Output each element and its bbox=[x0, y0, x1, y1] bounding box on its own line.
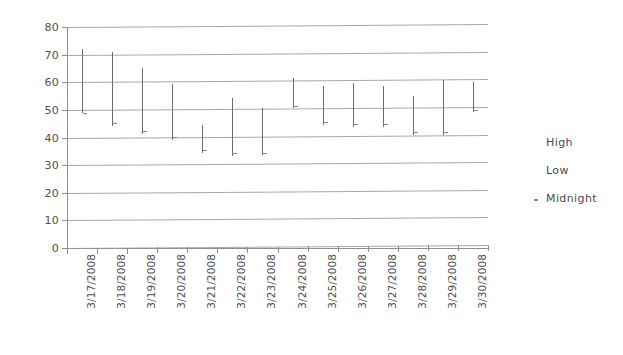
high-low-bar bbox=[112, 52, 113, 127]
y-axis-tick-mark bbox=[62, 27, 67, 28]
high-low-bar bbox=[473, 82, 474, 112]
gridline bbox=[67, 107, 488, 111]
y-axis-tick-label: 30 bbox=[25, 160, 59, 171]
x-axis-tick-label: 3/17/2008 bbox=[86, 254, 97, 309]
x-axis-tick-label: 3/22/2008 bbox=[236, 254, 247, 309]
x-axis-tick-label: 3/25/2008 bbox=[327, 254, 338, 309]
high-low-bar bbox=[413, 96, 414, 135]
x-axis-tick-mark bbox=[278, 247, 279, 253]
midnight-marker bbox=[143, 131, 147, 132]
y-axis-tick-label: 70 bbox=[25, 50, 59, 61]
y-axis-tick-label: 40 bbox=[25, 133, 59, 144]
gridline bbox=[67, 52, 488, 56]
x-axis-tick-label: 3/30/2008 bbox=[477, 254, 488, 309]
x-axis-tick-label: 3/23/2008 bbox=[266, 254, 277, 309]
legend-marker-midnight-icon bbox=[534, 199, 538, 201]
high-low-bar bbox=[293, 78, 294, 108]
x-axis-tick-mark bbox=[187, 247, 188, 253]
legend-item-midnight: Midnight bbox=[528, 192, 623, 220]
legend-item-low: Low bbox=[528, 164, 623, 192]
x-axis-tick-mark bbox=[127, 248, 128, 254]
x-axis-tick-mark bbox=[308, 246, 309, 252]
high-low-bar bbox=[383, 86, 384, 127]
plot-area bbox=[67, 27, 488, 248]
high-low-bar bbox=[142, 68, 143, 134]
x-axis-tick-mark bbox=[398, 246, 399, 252]
x-axis-tick-mark bbox=[338, 246, 339, 252]
high-low-bar bbox=[172, 84, 173, 139]
x-axis-tick-label: 3/20/2008 bbox=[176, 254, 187, 309]
gridline bbox=[67, 162, 488, 166]
x-axis-tick-label: 3/24/2008 bbox=[297, 254, 308, 309]
high-low-bar bbox=[443, 80, 444, 135]
x-axis-tick-mark bbox=[97, 248, 98, 254]
midnight-marker bbox=[233, 153, 237, 154]
midnight-marker bbox=[444, 132, 448, 133]
legend-item-high: High bbox=[528, 136, 623, 164]
legend-marker-high-icon bbox=[534, 143, 538, 145]
y-axis-tick-label: 50 bbox=[25, 105, 59, 116]
x-axis-tick-label: 3/18/2008 bbox=[116, 254, 127, 309]
x-axis-tick-mark bbox=[247, 247, 248, 253]
legend-label-midnight: Midnight bbox=[546, 192, 597, 206]
x-axis-tick-label: 3/27/2008 bbox=[387, 254, 398, 309]
chart-legend: High Low Midnight bbox=[528, 136, 623, 220]
x-axis-tick-mark bbox=[458, 245, 459, 251]
gridline bbox=[67, 217, 488, 221]
y-axis-tick-mark bbox=[62, 82, 67, 83]
y-axis-tick-label: 20 bbox=[25, 188, 59, 199]
high-low-bar bbox=[353, 83, 354, 127]
gridline bbox=[67, 24, 488, 28]
y-axis-tick-mark bbox=[62, 55, 67, 56]
midnight-marker bbox=[384, 124, 388, 125]
x-axis-tick-mark bbox=[488, 245, 489, 251]
y-axis-tick-mark bbox=[62, 138, 67, 139]
gridline bbox=[67, 135, 488, 139]
y-axis-tick-mark bbox=[62, 248, 67, 249]
chart-figure: 80706050403020100 3/17/20083/18/20083/19… bbox=[0, 0, 623, 355]
y-axis-tick-label: 0 bbox=[25, 243, 59, 254]
y-axis-tick-label: 60 bbox=[25, 77, 59, 88]
midnight-marker bbox=[83, 113, 87, 114]
high-low-bar bbox=[232, 98, 233, 156]
midnight-marker bbox=[474, 110, 478, 111]
high-low-bar bbox=[82, 49, 83, 113]
midnight-marker bbox=[324, 122, 328, 123]
high-low-bar bbox=[323, 86, 324, 125]
midnight-marker bbox=[203, 150, 207, 151]
y-axis-tick-mark bbox=[62, 165, 67, 166]
x-axis-tick-label: 3/21/2008 bbox=[206, 254, 217, 309]
legend-marker-low-icon bbox=[534, 171, 538, 173]
x-axis-tick-mark bbox=[217, 247, 218, 253]
x-axis-tick-label: 3/28/2008 bbox=[417, 254, 428, 309]
y-axis-tick-mark bbox=[62, 110, 67, 111]
midnight-marker bbox=[263, 153, 267, 154]
midnight-marker bbox=[354, 124, 358, 125]
midnight-marker bbox=[113, 123, 117, 124]
x-axis-tick-mark bbox=[67, 248, 68, 254]
legend-label-low: Low bbox=[546, 164, 569, 178]
gridline bbox=[67, 190, 488, 194]
high-low-bar bbox=[262, 108, 263, 155]
midnight-marker bbox=[173, 137, 177, 138]
gridline bbox=[67, 79, 488, 83]
x-axis-tick-mark bbox=[428, 245, 429, 251]
legend-label-high: High bbox=[546, 136, 573, 150]
x-axis-tick-label: 3/19/2008 bbox=[146, 254, 157, 309]
y-axis-tick-mark bbox=[62, 193, 67, 194]
x-axis-tick-mark bbox=[157, 247, 158, 253]
y-axis-tick-label: 10 bbox=[25, 215, 59, 226]
y-axis-tick-mark bbox=[62, 220, 67, 221]
midnight-marker bbox=[414, 132, 418, 133]
x-axis-tick-mark bbox=[368, 246, 369, 252]
y-axis-tick-label: 80 bbox=[25, 22, 59, 33]
x-axis-tick-label: 3/26/2008 bbox=[357, 254, 368, 309]
high-low-bar bbox=[202, 125, 203, 153]
x-axis-tick-label: 3/29/2008 bbox=[447, 254, 458, 309]
midnight-marker bbox=[294, 106, 298, 107]
